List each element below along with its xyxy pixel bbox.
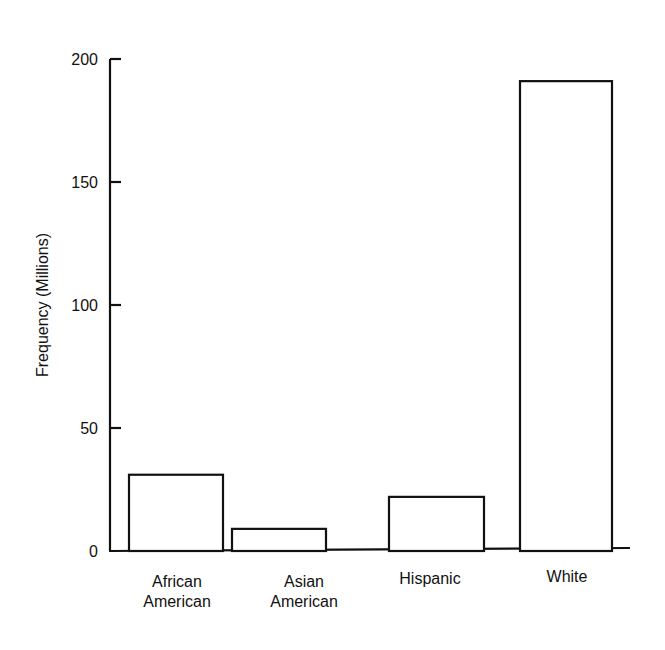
y-tick-label: 50: [80, 420, 98, 437]
y-axis: 050100150200: [71, 51, 121, 560]
x-category-label: AsianAmerican: [270, 573, 338, 610]
y-axis-title: Frequency (Millions): [34, 233, 51, 377]
category-labels: AfricanAmericanAsianAmericanHispanicWhit…: [143, 568, 587, 610]
bar-hispanic: [389, 497, 484, 551]
y-tick-label: 150: [71, 174, 98, 191]
y-tick-label: 0: [89, 543, 98, 560]
y-tick-label: 200: [71, 51, 98, 68]
y-tick-label: 100: [71, 297, 98, 314]
bar-asian-american: [232, 529, 326, 551]
bars: [129, 81, 612, 551]
x-category-label: AfricanAmerican: [143, 573, 211, 610]
bar-chart: 050100150200 AfricanAmericanAsianAmerica…: [0, 0, 665, 650]
x-category-label: Hispanic: [399, 570, 460, 587]
x-category-label: White: [547, 568, 588, 585]
bar-african-american: [129, 475, 223, 551]
bar-white: [520, 81, 612, 551]
